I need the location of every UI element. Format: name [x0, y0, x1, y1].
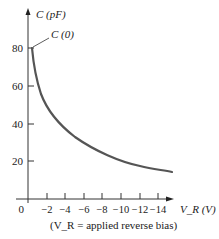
x-tick-label: −12 — [132, 204, 148, 215]
x-tick-label: −14 — [150, 204, 167, 215]
y-tick-label: 60 — [12, 80, 24, 92]
x-tick-label: −6 — [78, 204, 89, 215]
caption: (V_R = applied reverse bias) — [50, 219, 177, 232]
x-ticks — [47, 193, 158, 199]
x-axis-label: V_R (V) — [180, 203, 216, 216]
y-axis-arrow-icon — [26, 8, 31, 15]
origin-label: 0 — [19, 203, 25, 215]
y-axis-label: C (pF) — [36, 8, 66, 21]
capacitance-curve — [32, 48, 172, 172]
capacitance-chart: 80 60 40 20 0 −2 −4 −6 −8 −10 −12 −14 C … — [0, 0, 219, 239]
x-tick-label: −4 — [59, 204, 71, 215]
y-tick-label: 80 — [12, 42, 24, 54]
x-axis-arrow-icon — [166, 197, 174, 202]
x-tick-label: −2 — [41, 204, 52, 215]
y-tick-label: 20 — [12, 155, 24, 167]
x-tick-label: −8 — [96, 204, 107, 215]
y-tick-label: 40 — [12, 118, 24, 130]
annotation-leader — [33, 38, 49, 47]
annotation-c0: C (0) — [51, 28, 74, 41]
x-tick-label: −10 — [113, 204, 129, 215]
